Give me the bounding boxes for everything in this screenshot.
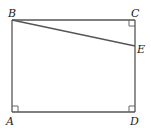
label-b: B (7, 7, 16, 20)
label-e: E (136, 43, 145, 56)
label-c: C (131, 7, 140, 20)
right-angle-marker-a (12, 106, 18, 112)
geometry-diagram: B C E A D (0, 0, 151, 131)
right-angle-marker-d (129, 106, 135, 112)
label-d: D (129, 115, 139, 128)
right-angle-marker-c (129, 20, 135, 26)
label-a: A (5, 115, 14, 128)
segment-be (12, 20, 135, 46)
